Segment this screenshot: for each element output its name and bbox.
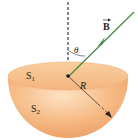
diagram-canvas: B θ R S1 S2 bbox=[0, 0, 138, 140]
hemisphere-flux-diagram: B θ R S1 S2 bbox=[0, 0, 138, 140]
field-arrowhead-icon-b bbox=[97, 40, 106, 47]
field-label: B bbox=[103, 21, 110, 32]
radius-label: R bbox=[79, 80, 86, 91]
center-point bbox=[66, 74, 70, 78]
angle-label: θ bbox=[74, 45, 79, 55]
